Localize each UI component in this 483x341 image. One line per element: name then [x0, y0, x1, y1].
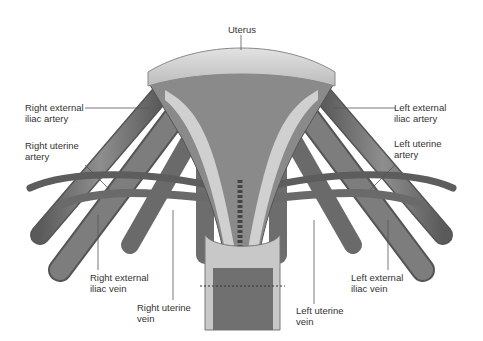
label-right-uterine-artery: Right uterine artery — [25, 140, 79, 162]
label-right-uterine-vein: Right uterine vein — [137, 302, 191, 324]
label-left-uterine-artery: Left uterine artery — [394, 138, 442, 160]
anatomy-illustration — [0, 0, 483, 341]
label-right-external-iliac-vein: Right external iliac vein — [90, 272, 149, 294]
label-left-uterine-vein: Left uterine vein — [296, 305, 344, 327]
label-left-external-iliac-artery: Left external iliac artery — [394, 102, 446, 124]
label-left-external-iliac-vein: Left external iliac vein — [351, 272, 403, 294]
label-right-external-iliac-artery: Right external iliac artery — [25, 102, 84, 124]
label-uterus: Uterus — [228, 24, 256, 35]
vagina — [200, 235, 285, 330]
